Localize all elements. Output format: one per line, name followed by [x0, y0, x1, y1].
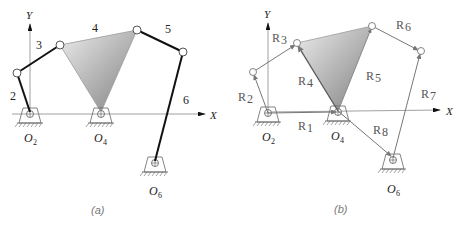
svg-text:O: O [24, 131, 33, 145]
joint-b-3-4 [294, 40, 301, 47]
link-label-2: 2 [10, 89, 16, 103]
svg-text:R: R [396, 18, 404, 32]
svg-text:6: 6 [405, 20, 411, 34]
panel-a: Y X 2 3 4 5 6 O 2 O 4 O 6 (a) [10, 9, 218, 216]
svg-text:R: R [421, 87, 429, 101]
svg-text:4: 4 [307, 76, 313, 90]
link-label-5: 5 [165, 22, 171, 36]
vector-label-r2: R 2 [238, 90, 253, 106]
svg-text:3: 3 [281, 33, 287, 47]
svg-text:O: O [331, 129, 340, 143]
svg-text:1: 1 [307, 121, 313, 135]
svg-text:4: 4 [103, 138, 107, 147]
svg-text:8: 8 [382, 125, 388, 139]
joint-a-5-6 [179, 48, 187, 56]
svg-text:O: O [149, 184, 158, 198]
ground-pivot-o6-b [378, 154, 406, 173]
mechanism-figure: Y X 2 3 4 5 6 O 2 O 4 O 6 (a) [0, 0, 459, 227]
svg-text:2: 2 [33, 138, 37, 147]
joint-b-5-6 [418, 48, 425, 55]
svg-text:7: 7 [430, 89, 436, 103]
vector-label-r4: R 4 [298, 74, 313, 90]
pivot-label-o6-b: O 6 [387, 182, 400, 198]
svg-text:R: R [298, 119, 306, 133]
link-label-4: 4 [92, 21, 98, 35]
vector-r6 [372, 26, 418, 50]
link-4-triangle-b [297, 26, 372, 111]
svg-text:O: O [387, 182, 396, 196]
vector-r7 [393, 54, 420, 158]
svg-text:6: 6 [158, 191, 162, 200]
vector-label-r8: R 8 [373, 123, 388, 139]
ground-pivot-o6 [140, 157, 168, 176]
link-2 [17, 73, 30, 112]
x-axis-label-b: X [445, 105, 454, 117]
link-4-triangle [60, 30, 137, 112]
svg-text:O: O [262, 130, 271, 144]
pivot-label-o4-b: O 4 [331, 129, 344, 145]
svg-text:R: R [272, 31, 280, 45]
joint-a-2-3 [13, 69, 21, 77]
vector-r3 [253, 45, 295, 72]
caption-a: (a) [91, 204, 105, 216]
svg-text:R: R [238, 90, 246, 104]
caption-b: (b) [334, 203, 348, 215]
svg-text:O: O [94, 131, 103, 145]
link-6 [155, 52, 183, 161]
joint-a-4-5 [133, 26, 141, 34]
svg-text:2: 2 [271, 137, 275, 146]
joint-b-2-3 [250, 69, 257, 76]
y-axis-label-b: Y [264, 8, 272, 20]
x-axis-label-a: X [209, 109, 218, 121]
x-axis-b [268, 110, 440, 112]
pivot-label-o4-a: O 4 [94, 131, 107, 147]
vector-label-r7: R 7 [421, 87, 436, 103]
joint-b-4-5 [369, 23, 376, 30]
svg-text:R: R [366, 69, 374, 83]
svg-text:4: 4 [340, 136, 344, 145]
joint-a-3-4 [56, 41, 64, 49]
pivot-label-o2-b: O 2 [262, 130, 275, 146]
link-5 [137, 30, 183, 52]
vector-label-r1: R 1 [298, 119, 313, 135]
pivot-label-o2-a: O 2 [24, 131, 37, 147]
svg-text:5: 5 [375, 71, 381, 85]
link-label-3: 3 [36, 38, 42, 52]
svg-text:2: 2 [247, 92, 253, 106]
vector-label-r6: R 6 [396, 18, 411, 34]
svg-text:R: R [373, 123, 381, 137]
vector-label-r5: R 5 [366, 69, 381, 85]
svg-text:R: R [298, 74, 306, 88]
panel-b: Y X R 1 R 2 R 3 R 4 R 5 R 6 R 7 [238, 8, 454, 215]
link-label-6: 6 [183, 93, 189, 107]
vector-label-r3: R 3 [272, 31, 287, 47]
y-axis-label-a: Y [26, 9, 34, 21]
svg-text:6: 6 [396, 189, 400, 198]
pivot-label-o6-a: O 6 [149, 184, 162, 200]
ground-pivot-o4 [86, 108, 114, 127]
